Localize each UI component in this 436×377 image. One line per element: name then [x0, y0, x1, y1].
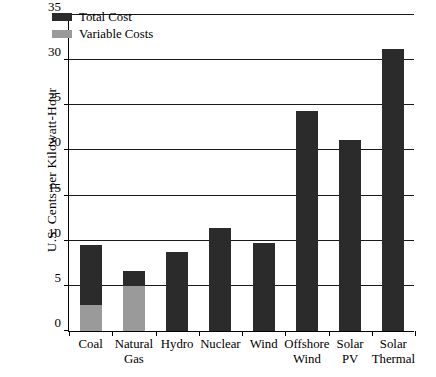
x-axis-tick-label-line: Gas [91, 352, 177, 367]
bar-group [253, 16, 275, 331]
gridline [69, 149, 414, 150]
bar-total-cost [166, 252, 188, 331]
bar-group [209, 16, 231, 331]
bar-group [166, 16, 188, 331]
bar-total-cost [253, 243, 275, 331]
bar-group [123, 16, 145, 331]
legend-swatch-icon [52, 13, 72, 21]
plot-area: 05101520253035 CoalNaturalGasHydroNuclea… [68, 16, 414, 332]
bar-chart-figure: U.S. Cents per Kilowatt-Hour 05101520253… [0, 0, 436, 377]
gridline [69, 59, 414, 60]
x-axis-tick [285, 331, 286, 336]
x-axis-tick [329, 331, 330, 336]
bar-total-cost [209, 228, 231, 331]
y-axis-tick [64, 240, 69, 241]
bar-group [339, 16, 361, 331]
legend-item: Variable Costs [52, 26, 153, 42]
bar-total-cost [339, 140, 361, 331]
bar-total-cost [382, 49, 404, 331]
bar-group [80, 16, 102, 331]
legend-item: Total Cost [52, 9, 153, 25]
gridline [69, 104, 414, 105]
y-axis-tick-label: 10 [48, 225, 61, 241]
y-axis-tick [64, 149, 69, 150]
y-axis-tick-label: 25 [48, 89, 61, 105]
x-axis-tick [415, 331, 416, 336]
x-axis-tick [156, 331, 157, 336]
x-axis-tick [372, 331, 373, 336]
bar-variable-cost [123, 286, 145, 331]
y-axis-tick-label: 15 [48, 180, 61, 196]
y-axis-tick [64, 285, 69, 286]
x-axis-tick [199, 331, 200, 336]
y-axis-tick [64, 59, 69, 60]
y-axis-tick-label: 20 [48, 134, 61, 150]
x-axis-tick-label-line: Solar [350, 337, 436, 352]
x-axis-tick-label-line: Thermal [350, 352, 436, 367]
legend-swatch-icon [52, 30, 72, 38]
bar-group [296, 16, 318, 331]
y-axis-tick-label: 5 [55, 270, 62, 286]
bar-total-cost [296, 111, 318, 331]
legend-label: Total Cost [79, 9, 132, 25]
y-axis-tick-label: 0 [55, 315, 62, 331]
gridline [69, 240, 414, 241]
gridline [69, 285, 414, 286]
x-axis-tick [242, 331, 243, 336]
y-axis-tick [64, 195, 69, 196]
gridline [69, 195, 414, 196]
legend-label: Variable Costs [79, 26, 153, 42]
x-axis-tick-label: SolarThermal [350, 337, 436, 366]
x-axis-tick [112, 331, 113, 336]
y-axis-tick [64, 104, 69, 105]
x-axis-tick [69, 331, 70, 336]
chart-legend: Total CostVariable Costs [52, 9, 153, 43]
y-axis-tick-label: 30 [48, 44, 61, 60]
bar-variable-cost [80, 305, 102, 331]
bar-group [382, 16, 404, 331]
